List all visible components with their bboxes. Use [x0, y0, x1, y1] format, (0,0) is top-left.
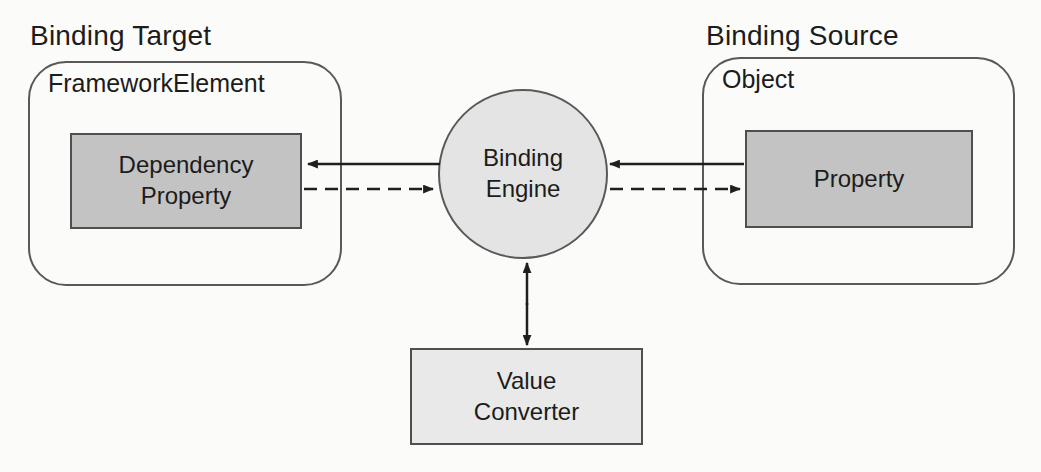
binding-target-heading: Binding Target — [30, 22, 211, 50]
property-label: Property — [814, 164, 905, 195]
binding-engine-label: Binding Engine — [483, 143, 563, 204]
property-box: Property — [745, 130, 973, 228]
value-converter-label: Value Converter — [474, 366, 579, 427]
object-label: Object — [722, 65, 794, 94]
binding-source-heading: Binding Source — [706, 22, 899, 50]
framework-element-label: FrameworkElement — [48, 69, 265, 98]
diagram-canvas: Binding Target Binding Source FrameworkE… — [0, 0, 1041, 472]
value-converter-box: Value Converter — [410, 348, 643, 445]
dependency-property-label: Dependency Property — [119, 150, 254, 211]
binding-engine-circle: Binding Engine — [438, 89, 608, 259]
dependency-property-box: Dependency Property — [70, 133, 302, 229]
